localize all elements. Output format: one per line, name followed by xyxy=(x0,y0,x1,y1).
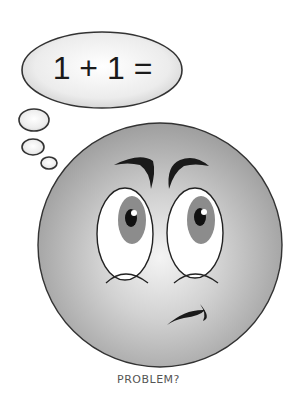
caption: PROBLEM? xyxy=(0,373,297,386)
thought-dots xyxy=(19,109,57,169)
thought-dot-small xyxy=(41,157,57,169)
right-eye xyxy=(167,188,223,278)
emoji-face xyxy=(38,123,282,367)
thought-dot-large xyxy=(19,109,49,131)
left-eye xyxy=(97,188,153,280)
thought-bubble-text: 1 + 1 = xyxy=(22,48,183,88)
thought-dot-medium xyxy=(22,139,44,155)
